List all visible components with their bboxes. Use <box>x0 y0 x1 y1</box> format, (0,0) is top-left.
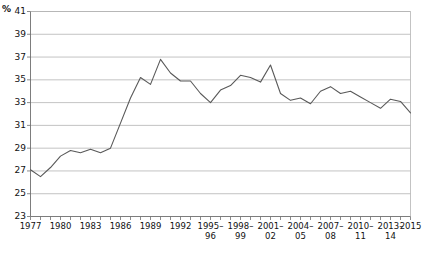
line-chart: % 23252729313335373941 19771980198319861… <box>0 0 434 258</box>
data-series-line <box>31 59 411 176</box>
gridlines <box>31 12 411 194</box>
axis-lines <box>31 12 411 217</box>
plot-area <box>0 0 434 258</box>
y-axis-tick-marks <box>27 12 31 217</box>
x-axis-tick-marks <box>31 217 411 221</box>
